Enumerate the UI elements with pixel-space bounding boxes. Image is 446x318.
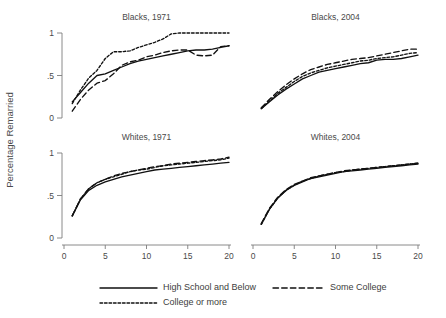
y-tick-label: 0 bbox=[49, 233, 54, 243]
chart-figure: Percentage Remarried Blacks, 19710.51Bla… bbox=[0, 0, 446, 318]
x-tick-label: 10 bbox=[142, 251, 152, 261]
x-tick-label: 15 bbox=[372, 251, 382, 261]
y-tick-label: 0 bbox=[49, 113, 54, 123]
y-axis-label: Percentage Remarried bbox=[4, 92, 15, 188]
y-tick-label: 1 bbox=[49, 148, 54, 158]
x-tick-label: 0 bbox=[251, 251, 256, 261]
y-tick-label: .5 bbox=[47, 191, 54, 201]
y-tick-label: 1 bbox=[49, 28, 54, 38]
legend-label: High School and Below bbox=[163, 282, 257, 292]
y-tick-label: .5 bbox=[47, 71, 54, 81]
x-tick-label: 5 bbox=[292, 251, 297, 261]
panel-title: Blacks, 1971 bbox=[122, 12, 171, 22]
x-tick-label: 15 bbox=[183, 251, 193, 261]
x-tick-label: 0 bbox=[62, 251, 67, 261]
x-tick-label: 20 bbox=[413, 251, 423, 261]
x-tick-label: 5 bbox=[103, 251, 108, 261]
legend-label: College or more bbox=[163, 297, 227, 307]
chart-svg: Percentage Remarried Blacks, 19710.51Bla… bbox=[0, 0, 446, 318]
x-tick-label: 10 bbox=[331, 251, 341, 261]
panel-title: Blacks, 2004 bbox=[311, 12, 360, 22]
panel-title: Whites, 2004 bbox=[311, 132, 361, 142]
legend-label: Some College bbox=[330, 282, 387, 292]
x-tick-label: 20 bbox=[224, 251, 234, 261]
panel-title: Whites, 1971 bbox=[122, 132, 172, 142]
